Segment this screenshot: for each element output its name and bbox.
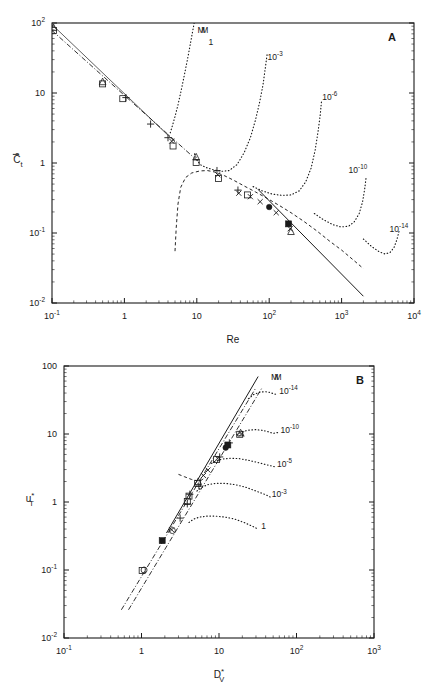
data-point-plus xyxy=(122,94,129,101)
curve-label: 10-10 xyxy=(280,423,299,435)
axis-tick-label: 10 xyxy=(214,646,224,656)
axis-tick-label: 10-2 xyxy=(29,296,45,308)
series-curve xyxy=(211,458,274,466)
x-axis-label-subscript: V xyxy=(219,675,224,684)
series-curve xyxy=(166,377,258,533)
axis-tick-label: 103 xyxy=(367,644,381,656)
plot-frame-b xyxy=(64,366,374,638)
data-point-triangle-open xyxy=(288,228,295,235)
data-points-b xyxy=(139,429,244,573)
curve-label-exponent: -5 xyxy=(286,457,292,464)
series-curve xyxy=(197,483,270,497)
series-group-b xyxy=(121,377,277,610)
family-label-M: M xyxy=(197,25,205,35)
series-curve xyxy=(314,178,366,227)
axis-tick-label: 1 xyxy=(139,646,144,656)
panel-b: 10-111010210310010110-110-2M10-1410-1010… xyxy=(26,361,382,683)
panel-a: 10-111010210310410210110-110-2M110-310-6… xyxy=(13,16,421,345)
data-point-x xyxy=(274,210,279,215)
axis-tick-label: 10-1 xyxy=(29,226,45,238)
axis-tick-label: 10-2 xyxy=(41,631,57,643)
axis-tick-exponent: 2 xyxy=(300,644,304,651)
panel-letter-b: B xyxy=(356,374,364,386)
x-axis-label: Re xyxy=(227,334,240,345)
series-curve xyxy=(363,232,399,255)
axis-tick-label: 1 xyxy=(122,311,127,321)
axis-tick-label: 102 xyxy=(290,644,304,656)
axis-tick-exponent: 2 xyxy=(41,16,45,23)
series-curve xyxy=(170,23,194,133)
data-point-square-filled xyxy=(286,221,292,227)
series-curve xyxy=(253,100,322,196)
axis-tick-label: 102 xyxy=(262,309,276,321)
series-curve xyxy=(175,171,363,269)
series-curve xyxy=(129,388,263,610)
data-point-square-filled xyxy=(159,538,165,544)
curve-label: 10-3 xyxy=(272,488,288,500)
axis-tick-label: 100 xyxy=(42,361,57,371)
axis-tick-exponent: -1 xyxy=(51,563,57,570)
curve-label-exponent: -6 xyxy=(332,90,338,97)
curve-label: 10-10 xyxy=(349,163,368,175)
axis-tick-exponent: -1 xyxy=(66,644,72,651)
curve-label: 1 xyxy=(208,37,213,47)
axis-tick-label: 103 xyxy=(335,309,349,321)
data-point-square-open xyxy=(120,96,126,102)
x-axis-label: D*V xyxy=(214,667,224,684)
data-point-x xyxy=(236,191,241,196)
curve-label: 1 xyxy=(261,521,266,531)
panel-letter-a: A xyxy=(388,31,396,43)
data-point-circle-filled xyxy=(266,204,272,210)
axis-tick-label: 1 xyxy=(52,497,57,507)
data-points-a xyxy=(50,24,294,235)
series-curve xyxy=(195,53,268,171)
scientific-figure-svg: 10-111010210310410210110-110-2M110-310-6… xyxy=(0,0,439,692)
curve-label: 10-5 xyxy=(277,457,293,469)
y-axis-label-subscript: T xyxy=(29,499,34,508)
curve-label-exponent: -14 xyxy=(399,222,409,229)
y-axis-label: u*T xyxy=(26,491,35,508)
axis-tick-exponent: -2 xyxy=(39,296,45,303)
series-group-a xyxy=(52,23,399,296)
axis-tick-exponent: -2 xyxy=(51,631,57,638)
curve-label-exponent: -10 xyxy=(358,163,368,170)
series-curve xyxy=(52,25,175,142)
axis-tick-exponent: -1 xyxy=(54,309,60,316)
curve-label-exponent: -14 xyxy=(289,384,299,391)
axis-tick-label: 10-1 xyxy=(41,563,57,575)
figure-root: 10-111010210310410210110-110-2M110-310-6… xyxy=(0,0,439,692)
axis-tick-label: 10 xyxy=(47,429,57,439)
axis-tick-label: 104 xyxy=(407,309,421,321)
curve-label-exponent: -3 xyxy=(281,488,287,495)
axis-tick-label: 10-1 xyxy=(44,309,60,321)
axis-tick-exponent: 3 xyxy=(377,644,381,651)
curve-label: 10-6 xyxy=(322,90,338,102)
family-label-M: M xyxy=(271,372,279,382)
data-point-x xyxy=(215,172,220,177)
axis-tick-exponent: 2 xyxy=(272,309,276,316)
data-point-x xyxy=(201,473,206,478)
axis-tick-label: 1 xyxy=(40,158,45,168)
data-point-square-open xyxy=(170,143,176,149)
axis-tick-label: 10 xyxy=(192,311,202,321)
series-curve xyxy=(189,516,258,529)
data-point-x xyxy=(258,199,263,204)
axis-tick-exponent: 3 xyxy=(345,309,349,316)
series-curve xyxy=(258,189,363,296)
curve-label: 10-3 xyxy=(268,50,284,62)
axis-tick-exponent: 4 xyxy=(417,309,421,316)
axis-tick-label: 102 xyxy=(31,16,45,28)
curve-label: 10-14 xyxy=(279,384,298,396)
y-axis-label-subscript: t xyxy=(21,160,24,169)
curve-label-exponent: -3 xyxy=(277,50,283,57)
data-point-plus xyxy=(147,120,154,127)
axis-tick-label: 10-1 xyxy=(56,644,72,656)
data-point-triangle-open xyxy=(99,78,106,85)
axis-tick-exponent: -1 xyxy=(39,226,45,233)
y-axis-label: C̄t xyxy=(13,153,23,168)
axis-tick-label: 10 xyxy=(35,88,45,98)
curve-label-exponent: -10 xyxy=(290,423,300,430)
